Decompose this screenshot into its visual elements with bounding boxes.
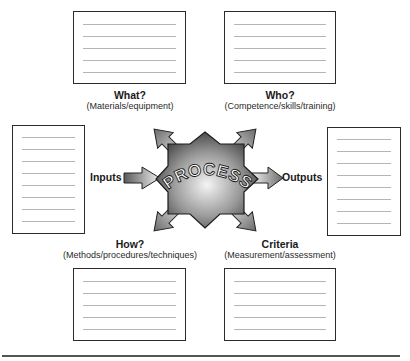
- process-graphic: PROCESS: [0, 0, 410, 361]
- bottom-divider: [2, 355, 400, 357]
- arrow-inputs-icon: [124, 167, 160, 189]
